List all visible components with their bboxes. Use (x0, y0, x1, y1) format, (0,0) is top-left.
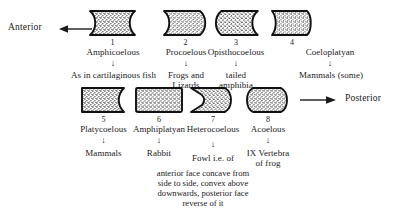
vertebra-shape-8-acoelous (243, 86, 293, 114)
vertebra-number-5: 5 (80, 115, 127, 124)
note-line-2: side to side, convex above (127, 178, 279, 188)
vertebra-shape-5-platycoelous (80, 86, 127, 114)
vertebra-number-3: 3 (213, 38, 259, 47)
vertebra-number-6: 6 (134, 115, 184, 124)
vertebra-shape-4-coeloplatyan (270, 9, 314, 37)
down-arrow-icon-8: ↓ (243, 136, 293, 145)
vertebra-term-8: Acoelous (243, 124, 293, 134)
vertebra-number-1: 1 (88, 38, 137, 47)
arrow-right-icon (300, 94, 336, 106)
vertebra-example-4: Mammals (some) (279, 70, 383, 80)
heterocoelous-description-note: anterior face concave from side to side,… (127, 168, 279, 209)
vertebra-example-8: IX Vertebra of frog (238, 148, 298, 169)
down-arrow-icon-3: ↓ (192, 59, 280, 68)
vertebra-example-3-line-1: tailed (192, 70, 280, 80)
vertebra-term-3: Opisthocoelous (192, 47, 280, 57)
note-line-1: anterior face concave from (127, 168, 279, 178)
note-line-4: reverse of it (127, 198, 279, 208)
vertebra-number-2: 2 (162, 38, 209, 47)
vertebra-shape-1-amphicoelous (88, 9, 137, 37)
vertebra-shape-6-amphiplatyan (134, 86, 184, 114)
anterior-label: Anterior (8, 22, 42, 32)
vertebra-example-8-line-1: IX Vertebra (238, 148, 298, 158)
vertebra-types-diagram: Anterior 1 Amphicoelous ↓ As in (0, 0, 395, 221)
vertebra-shape-2-procoelous (162, 9, 209, 37)
vertebra-shape-3-opisthocoelous (213, 9, 259, 37)
vertebra-number-8: 8 (243, 115, 293, 124)
note-line-3: downwards, posterior face (127, 188, 279, 198)
vertebra-number-4: 4 (270, 38, 314, 47)
vertebra-shape-7-heterocoelous (189, 86, 237, 114)
down-arrow-icon-4: ↓ (285, 59, 375, 68)
vertebra-example-4-line-1: Mammals (some) (279, 70, 383, 80)
vertebra-number-7: 7 (189, 115, 237, 124)
vertebra-term-7: Heterocoelous (172, 124, 254, 134)
vertebra-term-4: Coeloplatyan (285, 47, 375, 57)
posterior-label: Posterior (345, 93, 381, 103)
